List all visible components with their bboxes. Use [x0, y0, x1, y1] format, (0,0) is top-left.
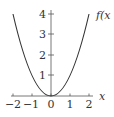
ytick-label: 1 [39, 69, 46, 82]
curve-label: f(x [95, 9, 111, 22]
xtick-label: 0 [48, 98, 55, 111]
chart: −2 −1 0 1 2 1 2 3 4 x f(x [0, 0, 114, 117]
ytick-label: 3 [39, 28, 46, 41]
ytick-label: 4 [39, 8, 46, 21]
x-axis-label: x [99, 90, 106, 103]
xtick-label: 1 [67, 98, 74, 111]
xtick-label: −1 [23, 98, 39, 111]
xtick-label: −2 [5, 98, 21, 111]
ytick-label: 2 [39, 49, 46, 62]
xtick-label: 2 [86, 98, 93, 111]
